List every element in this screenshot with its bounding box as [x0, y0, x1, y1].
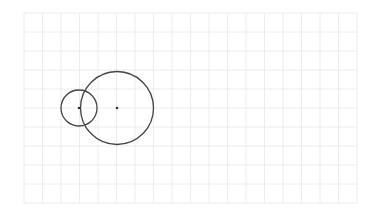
grid [24, 13, 357, 203]
large-circle-center [116, 107, 119, 110]
diagram-canvas [0, 0, 374, 221]
small-circle-center [78, 107, 81, 110]
